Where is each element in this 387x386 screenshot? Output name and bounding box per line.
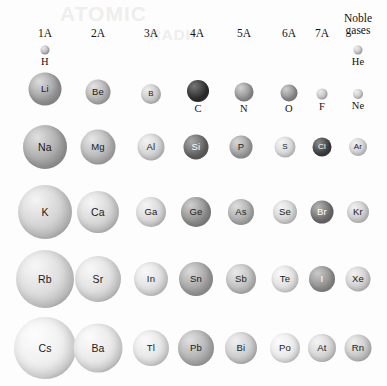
figure-canvas: ATOMIC RADII 1A2A3A4A5A6A7ANoblegases HH… [0, 0, 387, 386]
element-symbol-label: N [240, 104, 248, 114]
element-symbol-label: Po [279, 343, 291, 353]
group-header-line: 7A [315, 28, 329, 40]
element-symbol-label: Se [279, 207, 291, 217]
element-symbol-label: S [282, 142, 288, 152]
element-symbol-label: P [238, 142, 245, 152]
element-symbol-label: C [194, 104, 201, 114]
element-symbol-label: Xe [352, 274, 364, 284]
element-symbol-label: As [235, 207, 247, 217]
group-header-1a: 1A [38, 28, 52, 40]
group-header-line: 6A [282, 28, 296, 40]
group-header-line: 2A [91, 28, 105, 40]
element-symbol-label: Rb [38, 274, 52, 284]
group-header-4a: 4A [190, 28, 204, 40]
group-header-noble: Noblegases [344, 13, 372, 36]
element-symbol-label: Sb [235, 274, 247, 284]
group-header-line: 5A [237, 28, 251, 40]
element-symbol-label: Ge [189, 207, 202, 217]
page-bleed-text-1: ATOMIC [60, 2, 147, 26]
element-symbol-label: I [321, 274, 324, 284]
atomic-radius-sphere [354, 46, 363, 55]
element-symbol-label: Ca [91, 207, 105, 217]
element-symbol-label: Na [38, 142, 52, 152]
element-symbol-label: F [319, 102, 325, 112]
element-symbol-label: Cl [318, 142, 326, 152]
element-symbol-label: Sr [93, 274, 104, 284]
element-symbol-label: Te [280, 274, 290, 284]
element-symbol-label: In [147, 274, 155, 284]
element-symbol-label: Sn [190, 274, 202, 284]
element-symbol-label: O [285, 104, 293, 114]
atomic-radius-sphere [317, 89, 328, 100]
element-symbol-label: Bi [237, 343, 246, 353]
element-symbol-label: K [41, 207, 48, 217]
group-header-5a: 5A [237, 28, 251, 40]
element-symbol-label: He [352, 57, 365, 67]
group-header-6a: 6A [282, 28, 296, 40]
element-symbol-label: Tl [147, 343, 155, 353]
element-symbol-label: H [41, 57, 49, 67]
element-symbol-label: Rn [352, 343, 365, 353]
element-symbol-label: Ar [354, 142, 362, 152]
element-symbol-label: Kr [353, 207, 363, 217]
element-symbol-label: Al [147, 142, 156, 152]
element-symbol-label: Pb [190, 343, 202, 353]
atomic-radius-sphere [41, 46, 50, 55]
element-symbol-label: Ne [352, 101, 365, 111]
element-symbol-label: Mg [91, 142, 105, 152]
atomic-radius-sphere [353, 89, 363, 99]
atomic-radius-sphere [187, 80, 209, 102]
group-header-line: Noble [344, 13, 372, 25]
element-symbol-label: Ba [91, 343, 104, 353]
group-header-line: 4A [190, 28, 204, 40]
group-header-3a: 3A [144, 28, 158, 40]
atomic-radius-sphere [281, 85, 298, 102]
element-symbol-label: Li [41, 84, 49, 94]
element-symbol-label: Cs [38, 343, 51, 353]
element-symbol-label: At [317, 343, 326, 353]
group-header-line: 1A [38, 28, 52, 40]
atomic-radius-sphere [235, 83, 254, 102]
group-header-7a: 7A [315, 28, 329, 40]
group-header-2a: 2A [91, 28, 105, 40]
element-symbol-label: Br [317, 207, 327, 217]
group-header-line: 3A [144, 28, 158, 40]
element-symbol-label: B [148, 89, 154, 99]
group-header-line: gases [344, 25, 372, 37]
element-symbol-label: Si [192, 142, 201, 152]
element-symbol-label: Be [92, 87, 104, 97]
element-symbol-label: Ga [144, 207, 157, 217]
